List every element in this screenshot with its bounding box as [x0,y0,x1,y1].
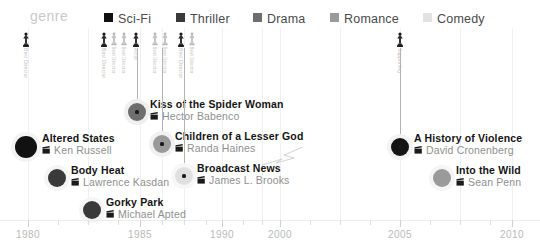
legend-item-comedy[interactable]: Comedy [423,9,485,25]
film-director-name: David Cronenberg [426,144,514,156]
axis-label: 1985 [128,229,152,240]
legend-item-label: Romance [344,12,399,26]
oscar-statuette-icon[interactable]: Best Director [178,32,185,47]
oscar-statuette-icon[interactable]: Best Director [162,32,168,46]
legend-item-label: Sci-Fi [118,12,151,26]
film-title: Body Heat [71,164,169,176]
legend-swatch-icon [423,13,432,22]
connector-squiggle [256,146,304,166]
film-director-row: Lawrence Kasdan [71,176,169,188]
gridline [88,28,89,220]
legend-swatch-icon [104,13,113,22]
award-category-label: Supporting [396,48,402,73]
axis-tick [512,220,513,227]
clapperboard-icon [71,176,80,188]
axis-tick [222,220,223,227]
gridline [222,28,223,220]
award-category-label: Best Director [22,48,28,78]
axis-label: 2010 [500,229,524,240]
clapperboard-icon [150,110,159,122]
film-label: Altered StatesKen Russell [42,132,115,156]
award-category-label: Best Director [110,46,115,73]
film-dot-core [160,142,163,145]
legend: genre Sci-FiThrillerDramaRomanceComedy [0,8,540,28]
legend-item-romance[interactable]: Romance [330,9,399,25]
award-category-label: Best Director [151,46,156,73]
oscar-statuette-icon[interactable]: Best Director [111,32,117,46]
award-category-label: Best Director [100,48,106,78]
legend-item-label: Drama [267,12,306,26]
axis-tick [340,220,341,225]
clapperboard-icon [414,144,423,156]
oscars-timeline-chart: genre Sci-FiThrillerDramaRomanceComedy B… [0,0,540,252]
film-label: Gorky ParkMichael Apted [106,196,186,220]
axis-tick [280,220,281,227]
legend-item-drama[interactable]: Drama [253,9,306,25]
axis-label: 1980 [16,229,40,240]
film-genre-dot[interactable] [83,201,101,219]
film-director-name: Ken Russell [54,144,112,156]
film-title: Into the Wild [456,164,521,176]
oscar-statuette-icon[interactable]: Best Director [101,32,108,47]
film-title: A History of Violence [414,132,522,144]
film-director-name: James L. Brooks [209,174,289,186]
film-dot-core [398,145,401,148]
gridline [512,28,513,220]
film-genre-dot[interactable] [15,136,37,158]
legend-swatch-icon [253,13,262,22]
legend-swatch-icon [330,13,339,22]
film-director-name: Hector Babenco [162,110,239,122]
film-director-name: Michael Apted [118,208,186,220]
film-dot-core [182,174,185,177]
film-director-row: Hector Babenco [150,110,284,122]
film-title: Kiss of the Spider Woman [150,98,284,110]
axis-rule [0,220,540,221]
legend-item-label: Thriller [190,12,230,26]
oscar-statuette-icon[interactable]: Supporting [397,32,404,47]
legend-swatch-icon [176,13,185,22]
node-stem [184,48,185,176]
axis-tick [490,220,491,225]
legend-title: genre [30,8,68,24]
axis-tick [243,220,244,225]
clapperboard-icon [42,144,51,156]
award-category-label: Best Director [177,48,183,78]
film-genre-dot[interactable] [433,169,451,187]
film-title: Gorky Park [106,196,186,208]
legend-item-thriller[interactable]: Thriller [176,9,230,25]
film-label: Kiss of the Spider WomanHector Babenco [150,98,284,122]
film-label: Into the WildSean Penn [456,164,521,188]
axis-tick [162,220,163,225]
clapperboard-icon [456,176,465,188]
axis-tick [118,220,119,225]
axis-tick [430,220,431,225]
oscar-statuette-icon[interactable]: Best Director [189,32,195,46]
axis-label: 2005 [388,229,412,240]
axis-tick [400,220,401,227]
gridline [340,28,341,220]
legend-item-sci-fi[interactable]: Sci-Fi [104,9,151,25]
clapperboard-icon [197,174,206,186]
film-label: A History of ViolenceDavid Cronenberg [414,132,522,156]
film-director-row: Michael Apted [106,208,186,220]
axis-tick [28,220,29,227]
clapperboard-icon [106,208,115,220]
film-dot-core [135,110,138,113]
oscar-statuette-icon[interactable]: Best Director [152,32,158,46]
film-director-name: Lawrence Kasdan [83,176,169,188]
award-category-label: Best Director [188,46,193,73]
axis-label: 1990 [210,229,234,240]
film-label: Body HeatLawrence Kasdan [71,164,169,188]
film-director-row: Sean Penn [456,176,521,188]
node-stem [162,48,163,144]
gridline [262,28,263,220]
oscar-statuette-icon[interactable]: Best Director [23,32,30,47]
oscar-statuette-icon[interactable]: Best Director [121,32,127,46]
oscar-statuette-icon[interactable]: Actor [133,32,140,47]
legend-item-label: Comedy [437,12,485,26]
award-category-label: Best Director [120,46,125,73]
film-genre-dot[interactable] [48,169,66,187]
axis-tick [310,220,311,225]
time-axis: 198019851990200020052010 [0,220,540,252]
axis-tick [262,220,263,225]
